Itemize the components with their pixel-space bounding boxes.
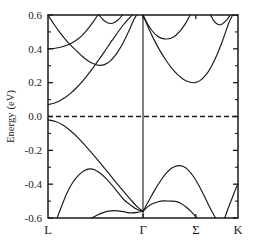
x-tick-label-1: Γ: [139, 223, 146, 237]
y-tick-label: -0.4: [25, 178, 43, 190]
band-structure-plot: 0.60.40.20.0-0.2-0.4-0.6 LΓΣK Energy (eV…: [0, 0, 255, 251]
y-axis-title: Energy (eV): [5, 90, 17, 143]
y-tick-label: 0.4: [28, 43, 42, 55]
x-tick-label-0: L: [44, 223, 52, 237]
y-tick-label: 0.0: [28, 110, 42, 122]
x-axis-tick-labels: LΓΣK: [44, 223, 242, 237]
y-axis-tick-labels: 0.60.40.20.0-0.2-0.4-0.6: [25, 9, 43, 224]
y-tick-label: 0.6: [28, 9, 42, 21]
x-tick-label-3: K: [233, 223, 242, 237]
y-tick-label: -0.2: [25, 144, 42, 156]
band-structure-figure: 0.60.40.20.0-0.2-0.4-0.6 LΓΣK Energy (eV…: [0, 0, 255, 251]
y-tick-label: 0.2: [28, 76, 42, 88]
y-tick-label: -0.6: [25, 212, 43, 224]
x-tick-label-2: Σ: [192, 223, 199, 237]
